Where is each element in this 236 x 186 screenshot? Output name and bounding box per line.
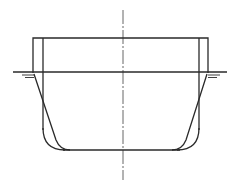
right-rounded-corner [177,128,199,150]
right-tapered-wall [172,74,207,150]
drawing-canvas [0,0,236,186]
outer-rim-outline [33,38,208,73]
cup-cross-section-diagram [0,0,236,186]
left-tapered-wall [34,74,70,150]
left-rounded-corner [43,128,65,150]
